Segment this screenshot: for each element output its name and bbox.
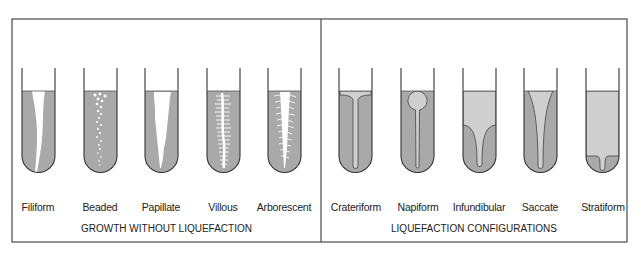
panel-caption-liquefaction-configurations: LIQUEFACTION CONFIGURATIONS — [321, 223, 627, 234]
tube-saccate — [524, 68, 557, 181]
gelatin-stab-culture-figure: Filiform Beaded Papillate Villous Arbore… — [0, 0, 641, 253]
tube-napiform — [401, 68, 434, 181]
tube-papillate — [145, 68, 178, 181]
tube-stratiform — [586, 68, 619, 181]
figure-drawing — [0, 0, 641, 253]
tube-arborescent — [268, 68, 301, 181]
tube-crateriform — [339, 68, 372, 181]
tube-villous — [207, 68, 240, 181]
tube-infundibular — [463, 68, 496, 181]
panel-caption-growth-without-liquefaction: GROWTH WITHOUT LIQUEFACTION — [12, 223, 321, 234]
tube-filiform — [22, 68, 55, 181]
tube-label-arborescent: Arborescent — [244, 201, 324, 213]
tube-beaded — [84, 68, 117, 181]
tube-label-stratiform: Stratiform — [563, 201, 641, 213]
